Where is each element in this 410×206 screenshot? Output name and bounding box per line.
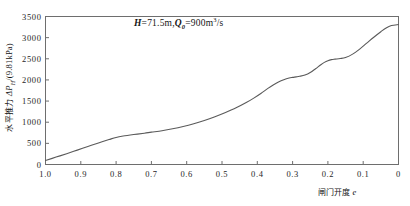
y-axis-label-text: 水平推力	[5, 99, 14, 132]
chart-figure: 0500100015002000250030003500 1.00.90.80.…	[0, 0, 410, 206]
y-tick-label: 3000	[22, 33, 41, 43]
x-tick-label: 1.0	[39, 169, 51, 179]
y-axis-label-delta-symbol: ΔP	[4, 86, 14, 97]
annotation-h-value: =71.5m,	[142, 18, 175, 28]
y-axis-label-container: 水平推力 ΔPH/(9.81kPa)	[0, 0, 18, 175]
thrust-vs-gate-opening-chart: 0500100015002000250030003500 1.00.90.80.…	[0, 0, 410, 206]
annotation-q-symbol: Q	[175, 18, 182, 28]
y-axis-label: 水平推力 ΔPH/(9.81kPa)	[3, 43, 16, 131]
x-tick-label: 0.2	[322, 169, 334, 179]
y-tick-label: 2500	[22, 54, 41, 64]
y-axis-label-delta-p: ΔPH	[4, 81, 14, 96]
x-axis-label-text: 闸门开度	[318, 188, 350, 197]
x-tick-label: 0.8	[110, 169, 122, 179]
y-tick-label: 1500	[22, 96, 41, 106]
x-tick-label: 0.5	[216, 169, 228, 179]
x-tick-label: 0.3	[286, 169, 298, 179]
y-tick-label: 2000	[22, 75, 41, 85]
annotation-q-unit: /s	[217, 18, 224, 28]
x-tick-label: 0.4	[251, 169, 264, 179]
y-tick-label: 1000	[22, 117, 41, 127]
y-axis-label-subscript: H	[9, 81, 15, 86]
x-axis-label-symbol: e	[353, 187, 357, 197]
x-axis-label: 闸门开度 e	[318, 186, 356, 197]
y-axis-tick-labels: 0500100015002000250030003500	[22, 12, 41, 170]
x-tick-label: 0.9	[75, 169, 87, 179]
x-axis-tick-labels: 1.00.90.80.70.60.50.40.30.20.10	[39, 169, 401, 179]
y-tick-label: 500	[27, 138, 42, 148]
x-tick-label: 0.7	[145, 169, 157, 179]
x-tick-label: 0.1	[357, 169, 369, 179]
chart-annotation: H=71.5m,Q0=900m3/s	[134, 16, 223, 30]
y-axis-label-unit: /(9.81kPa)	[4, 43, 14, 81]
plot-frame	[46, 17, 399, 165]
annotation-h-symbol: H	[134, 18, 142, 28]
annotation-q-value: =900m	[185, 18, 213, 28]
plot-border	[46, 17, 399, 165]
x-tick-label: 0	[396, 169, 401, 179]
y-tick-label: 3500	[22, 12, 41, 22]
x-tick-label: 0.6	[180, 169, 192, 179]
